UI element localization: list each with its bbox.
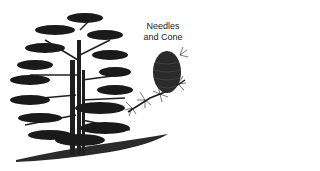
inset-label-needles: Needles — [138, 21, 188, 32]
inset-label-and-cone: and Cone — [138, 32, 188, 43]
needles-and-cone — [125, 47, 188, 116]
